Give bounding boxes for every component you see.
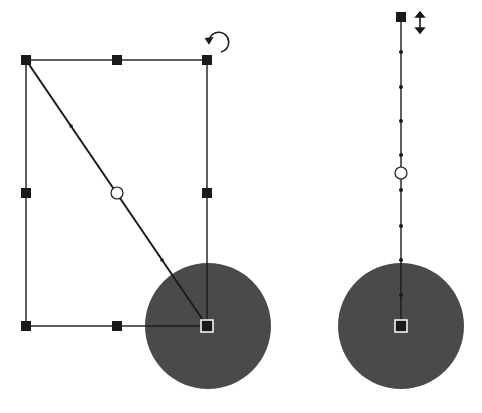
pivot-handle[interactable] xyxy=(201,320,213,332)
handle-middle-right[interactable] xyxy=(202,188,212,198)
handle-top-middle[interactable] xyxy=(112,55,122,65)
vertical-resize-icon[interactable] xyxy=(416,12,424,33)
midpoint-dot xyxy=(160,258,164,262)
left-figure xyxy=(21,32,271,389)
handle-bottom-middle[interactable] xyxy=(112,321,122,331)
rotate-icon[interactable] xyxy=(205,32,229,52)
handle-top-right[interactable] xyxy=(202,55,212,65)
center-circle-handle[interactable] xyxy=(111,187,123,199)
center-circle-handle[interactable] xyxy=(395,167,407,179)
handle-middle-left[interactable] xyxy=(21,188,31,198)
handle-top-left[interactable] xyxy=(21,55,31,65)
handle-bottom-left[interactable] xyxy=(21,321,31,331)
pivot-handle[interactable] xyxy=(395,320,407,332)
midpoint-dot xyxy=(69,124,73,128)
diagram-canvas xyxy=(0,0,482,413)
right-figure xyxy=(338,12,464,389)
top-handle[interactable] xyxy=(396,12,406,22)
